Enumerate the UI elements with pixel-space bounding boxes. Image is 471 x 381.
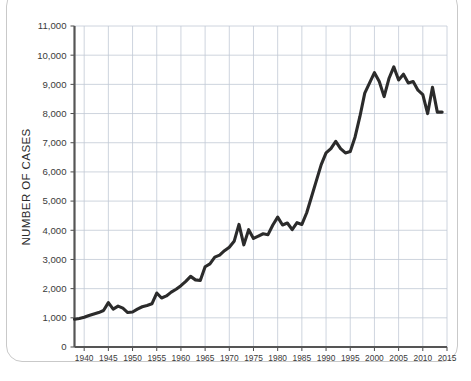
x-tick-label: 2005	[389, 353, 408, 363]
y-tick-label: 9,000	[42, 79, 66, 90]
y-axis-title: NUMBER OF CASES	[20, 128, 32, 245]
line-chart: 01,0002,0003,0004,0005,0006,0007,0008,00…	[0, 0, 471, 381]
y-tick-label: 11,000	[38, 20, 67, 31]
x-tick-label: 1960	[172, 353, 191, 363]
chart-container: 01,0002,0003,0004,0005,0006,0007,0008,00…	[0, 0, 471, 381]
x-tick-label: 1985	[293, 353, 312, 363]
x-tick-label: 1950	[123, 353, 142, 363]
x-tick-label: 1940	[75, 353, 94, 363]
x-tick-label: 2010	[413, 353, 432, 363]
x-axis-tick-labels: 1940194519501955196019651970197519801985…	[75, 353, 457, 363]
x-tick-label: 2000	[365, 353, 384, 363]
y-tick-label: 0	[61, 341, 66, 352]
y-axis-tick-labels: 01,0002,0003,0004,0005,0006,0007,0008,00…	[37, 20, 66, 352]
x-tick-label: 1995	[341, 353, 360, 363]
x-tick-label: 1970	[220, 353, 239, 363]
x-tick-label: 1955	[147, 353, 166, 363]
y-tick-label: 7,000	[42, 137, 66, 148]
x-tick-label: 1990	[317, 353, 336, 363]
data-series-line	[75, 67, 443, 319]
x-tick-label: 2015	[438, 353, 457, 363]
x-tick-label: 1965	[196, 353, 215, 363]
x-tick-label: 1945	[99, 353, 118, 363]
y-tick-label: 6,000	[42, 166, 66, 177]
y-tick-label: 10,000	[37, 50, 66, 61]
y-tick-label: 8,000	[42, 108, 66, 119]
x-tick-label: 1980	[268, 353, 287, 363]
y-tick-label: 2,000	[42, 283, 66, 294]
y-tick-label: 3,000	[42, 254, 66, 265]
y-tick-label: 1,000	[42, 312, 66, 323]
y-tick-label: 5,000	[42, 195, 66, 206]
x-tick-label: 1975	[244, 353, 263, 363]
y-tick-label: 4,000	[42, 225, 66, 236]
